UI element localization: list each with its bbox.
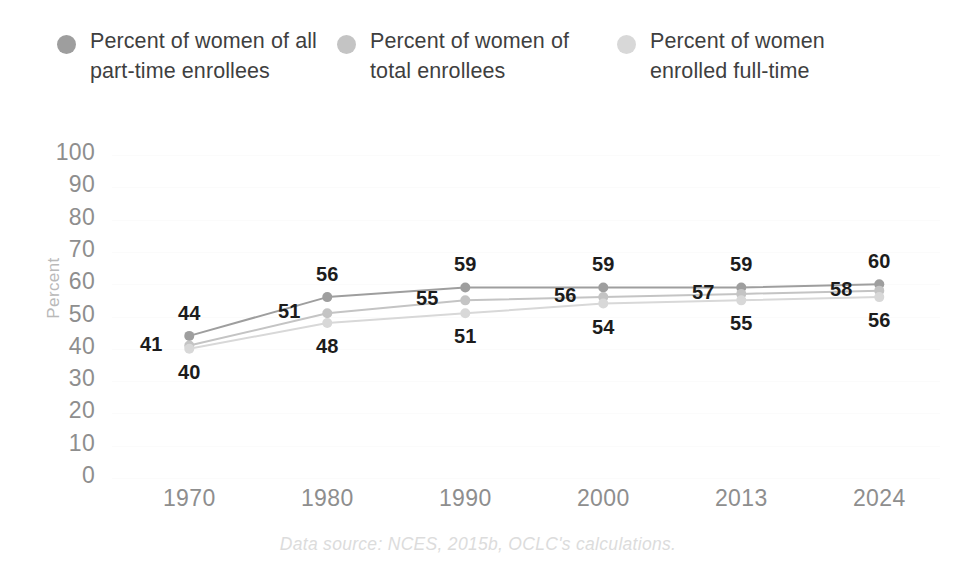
data-point-label: 51 [437,325,493,348]
data-point-marker[interactable] [322,292,332,302]
legend-dot-icon [57,35,76,54]
data-point-marker[interactable] [736,295,746,305]
data-point-label: 51 [261,300,317,323]
data-point-label: 59 [437,253,493,276]
legend-item-label: Percent of women of all part-time enroll… [90,26,327,86]
source-caption: Data source: NCES, 2015b, OCLC's calcula… [0,534,956,555]
data-point-label: 55 [713,312,769,335]
legend-item-total-enrollees[interactable]: Percent of women of total enrollees [337,26,607,86]
legend-dot-icon [617,35,636,54]
data-point-marker[interactable] [322,308,332,318]
data-point-marker[interactable] [460,282,470,292]
data-point-label: 58 [813,278,869,301]
legend-item-label: Percent of women of total enrollees [370,26,607,86]
data-point-marker[interactable] [460,295,470,305]
data-point-label: 41 [123,333,179,356]
chart-legend: Percent of women of all part-time enroll… [0,18,956,128]
legend-item-full-time[interactable]: Percent of women enrolled full-time [617,26,897,86]
data-point-label: 56 [537,284,593,307]
data-point-label: 44 [161,302,217,325]
data-point-label: 54 [575,316,631,339]
data-point-marker[interactable] [598,299,608,309]
line-chart: Percent 1009080706050403020100 197019801… [0,130,956,530]
data-point-marker[interactable] [460,308,470,318]
data-point-marker[interactable] [184,344,194,354]
data-point-label: 60 [851,250,907,273]
legend-item-part-time[interactable]: Percent of women of all part-time enroll… [57,26,327,86]
data-point-label: 40 [161,361,217,384]
data-point-label: 57 [675,281,731,304]
legend-dot-icon [337,35,356,54]
legend-item-label: Percent of women enrolled full-time [650,26,897,86]
data-point-label: 48 [299,335,355,358]
data-point-label: 55 [399,287,455,310]
data-point-marker[interactable] [322,318,332,328]
data-point-label: 59 [575,253,631,276]
data-point-marker[interactable] [874,292,884,302]
data-point-label: 56 [851,309,907,332]
data-point-label: 59 [713,253,769,276]
data-point-marker[interactable] [184,331,194,341]
data-point-marker[interactable] [598,282,608,292]
data-point-label: 56 [299,263,355,286]
